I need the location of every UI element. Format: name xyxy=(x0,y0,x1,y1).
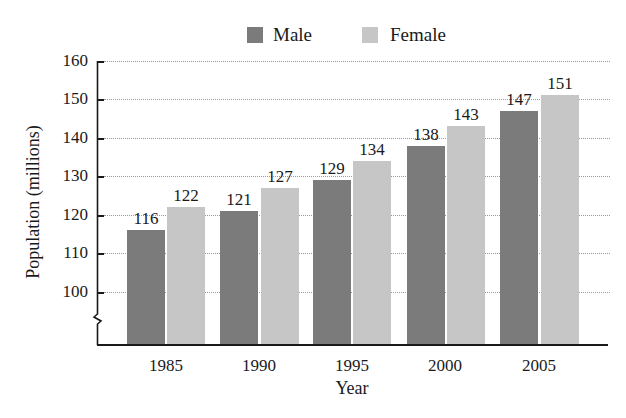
bar-male-1995 xyxy=(313,180,351,344)
bar-male-2005 xyxy=(500,111,538,344)
gridline-160 xyxy=(104,61,610,62)
bar-female-1995 xyxy=(353,161,391,344)
bar-female-2005 xyxy=(541,95,579,344)
bar-male-1990 xyxy=(220,211,258,344)
bar-male-2000 xyxy=(407,146,445,344)
bar-male-1985 xyxy=(127,230,165,344)
x-tick-label: 1995 xyxy=(322,357,382,375)
y-tick-label: 100 xyxy=(48,283,88,301)
y-tick-label: 110 xyxy=(48,244,88,262)
y-tick-label: 130 xyxy=(48,167,88,185)
data-label-male-1985: 116 xyxy=(121,210,171,228)
x-axis-title: Year xyxy=(322,378,382,398)
x-tick-label: 2000 xyxy=(415,357,475,375)
y-tick-label: 150 xyxy=(48,90,88,108)
y-tick-label: 160 xyxy=(48,52,88,70)
data-label-female-1995: 134 xyxy=(347,141,397,159)
legend-label-male: Male xyxy=(273,25,312,45)
x-tick-label: 2005 xyxy=(509,357,569,375)
data-label-female-2000: 143 xyxy=(441,106,491,124)
x-tick-label: 1990 xyxy=(229,357,289,375)
bar-female-1985 xyxy=(167,207,205,344)
y-tick-label: 120 xyxy=(48,206,88,224)
legend-swatch-female xyxy=(362,27,378,43)
x-axis-line xyxy=(97,344,608,346)
bar-female-2000 xyxy=(447,126,485,344)
data-label-male-2000: 138 xyxy=(401,126,451,144)
data-label-female-2005: 151 xyxy=(535,75,585,93)
data-label-male-1995: 129 xyxy=(307,160,357,178)
bar-female-1990 xyxy=(261,188,299,344)
y-axis-title: Population (millions) xyxy=(23,125,43,279)
data-label-female-1985: 122 xyxy=(161,187,211,205)
data-label-male-1990: 121 xyxy=(214,191,264,209)
data-label-male-2005: 147 xyxy=(494,91,544,109)
x-tick-label: 1985 xyxy=(136,357,196,375)
legend-label-female: Female xyxy=(390,25,446,45)
y-tick-label: 140 xyxy=(48,129,88,147)
y-axis-line xyxy=(90,58,110,348)
data-label-female-1990: 127 xyxy=(255,168,305,186)
legend-swatch-male xyxy=(247,27,263,43)
